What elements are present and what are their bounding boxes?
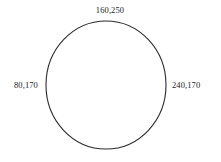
coordinate-label-left: 80,170 [14,80,38,90]
circle-outline [46,21,166,149]
coordinate-label-right: 240,170 [172,80,200,90]
figure-canvas: 160,250 80,170 240,170 [0,0,221,162]
coordinate-label-top: 160,250 [0,5,221,15]
